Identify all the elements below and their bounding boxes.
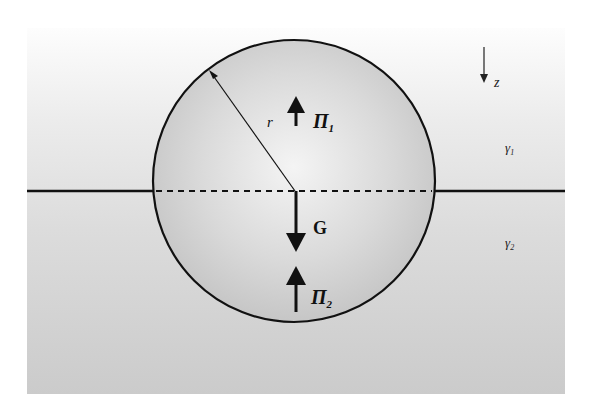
z-axis-label: z [493, 75, 500, 90]
sphere-interface-diagram: r Π1 G Π2 z γ1 γ2 [0, 0, 596, 419]
gravity-label: G [313, 218, 327, 238]
radius-label: r [267, 114, 273, 130]
